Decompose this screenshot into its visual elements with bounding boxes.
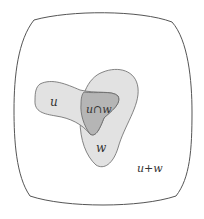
label-w: w — [96, 141, 107, 155]
label-intersection: u∩w — [86, 103, 112, 116]
label-sum: u+w — [137, 162, 163, 175]
label-u: u — [50, 95, 58, 109]
venn-diagram: u u∩w w u+w — [0, 0, 204, 219]
